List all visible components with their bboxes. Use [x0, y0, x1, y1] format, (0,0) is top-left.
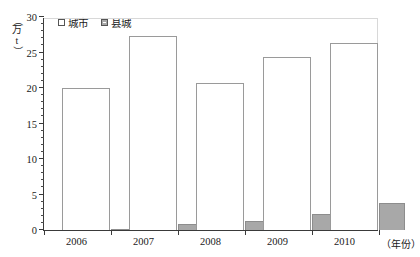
y-axis-unit-label: （ 万 t ）	[6, 16, 28, 55]
y-axis-minor-tick	[41, 30, 44, 31]
bar-city-2008	[196, 83, 244, 230]
bar-city-2010	[330, 43, 378, 230]
y-axis-minor-tick	[41, 108, 44, 109]
y-axis-major-tick	[39, 16, 44, 17]
y-axis-tick-label: 30	[27, 12, 38, 23]
y-axis-minor-tick	[41, 186, 44, 187]
x-axis-label-2010: 2010	[334, 236, 355, 247]
y-axis-minor-tick	[41, 44, 44, 45]
x-axis-label-2009: 2009	[267, 236, 288, 247]
bar-chart: （ 万 t ） 城市 县城 051015202530 2006200720082…	[0, 0, 420, 257]
x-axis-title: （年份）	[381, 236, 420, 251]
y-axis-minor-tick	[41, 23, 44, 24]
x-axis-label-2007: 2007	[133, 236, 154, 247]
x-axis-tick	[245, 230, 246, 235]
y-unit-open-paren: （	[13, 10, 22, 32]
y-axis-minor-tick	[41, 144, 44, 145]
plot-area: 051015202530	[43, 18, 378, 231]
y-axis-minor-tick	[41, 115, 44, 116]
bar-city-2009	[263, 57, 311, 230]
y-axis-minor-tick	[41, 94, 44, 95]
y-axis-minor-tick	[41, 215, 44, 216]
y-axis-minor-tick	[41, 59, 44, 60]
y-axis-minor-tick	[41, 101, 44, 102]
y-axis-tick-label: 0	[32, 225, 37, 236]
y-axis-tick-label: 15	[27, 118, 38, 129]
y-axis-minor-tick	[41, 80, 44, 81]
x-axis-tick	[312, 230, 313, 235]
y-axis-minor-tick	[41, 151, 44, 152]
y-axis-minor-tick	[41, 201, 44, 202]
y-axis-major-tick	[39, 123, 44, 124]
y-axis-minor-tick	[41, 179, 44, 180]
x-axis-tick	[379, 230, 380, 235]
y-axis-minor-tick	[41, 37, 44, 38]
y-axis-major-tick	[39, 194, 44, 195]
y-axis-minor-tick	[41, 208, 44, 209]
y-axis-tick-label: 20	[27, 83, 38, 94]
bar-city-2006	[62, 88, 110, 230]
y-axis-major-tick	[39, 87, 44, 88]
x-axis-tick	[111, 230, 112, 235]
bar-county-2010	[379, 203, 405, 230]
x-axis-tick	[44, 230, 45, 235]
y-axis-minor-tick	[41, 172, 44, 173]
y-axis-major-tick	[39, 52, 44, 53]
y-axis-minor-tick	[41, 165, 44, 166]
y-axis-tick-label: 25	[27, 47, 38, 58]
y-axis-minor-tick	[41, 73, 44, 74]
x-axis-label-2006: 2006	[66, 236, 87, 247]
y-axis-tick-label: 5	[32, 189, 37, 200]
y-axis-minor-tick	[41, 137, 44, 138]
y-axis-major-tick	[39, 158, 44, 159]
y-unit-close-paren: ）	[13, 40, 22, 62]
x-axis-label-2008: 2008	[200, 236, 221, 247]
x-axis-tick	[178, 230, 179, 235]
bar-city-2007	[129, 36, 177, 230]
y-axis-minor-tick	[41, 222, 44, 223]
y-axis-minor-tick	[41, 130, 44, 131]
y-axis-minor-tick	[41, 66, 44, 67]
y-axis-tick-label: 10	[27, 154, 38, 165]
